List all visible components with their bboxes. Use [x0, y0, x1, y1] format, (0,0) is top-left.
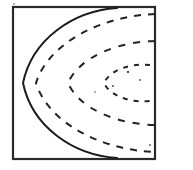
scan-speckle — [149, 144, 151, 146]
scan-speckles — [13, 3, 151, 146]
contour-curve-dashed-inner — [104, 65, 150, 102]
contour-curve-solid-outer — [23, 8, 117, 158]
figure-container — [0, 0, 193, 170]
scan-speckle — [13, 3, 15, 5]
contour-plot-svg — [0, 0, 193, 170]
scan-speckle — [127, 71, 129, 73]
contour-curve-dashed-second — [36, 14, 155, 152]
scan-speckle — [112, 85, 114, 87]
contour-curve-dashed-third — [68, 41, 155, 125]
scan-speckle — [139, 79, 141, 81]
scan-speckle — [94, 91, 96, 93]
plot-frame — [13, 7, 155, 159]
